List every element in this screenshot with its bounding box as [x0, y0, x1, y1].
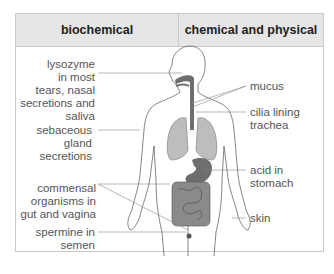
label-line: lysozyme	[47, 58, 95, 70]
label-mucus: mucus	[250, 80, 320, 93]
label-line: secretions and	[20, 97, 95, 109]
label-line: in most	[58, 71, 95, 83]
label-line: tears, nasal	[36, 84, 95, 96]
label-cilia: cilia lining trachea	[250, 106, 310, 132]
label-skin: skin	[250, 212, 290, 225]
label-acid: acid in stomach	[250, 164, 305, 190]
label-sebaceous: sebaceous gland secretions	[30, 124, 92, 163]
label-spermine: spermine in semen	[30, 226, 95, 252]
label-lysozyme: lysozyme in most tears, nasal secretions…	[20, 58, 95, 123]
label-line: saliva	[66, 110, 95, 122]
label-commensal: commensal organisms in gut and vagina	[18, 182, 96, 221]
